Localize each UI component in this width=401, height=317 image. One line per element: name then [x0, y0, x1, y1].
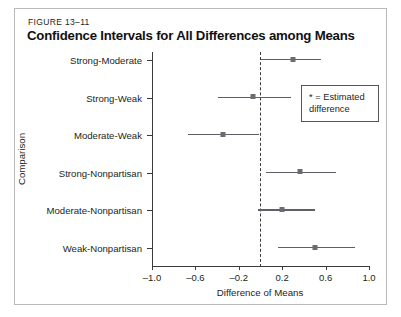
- y-axis-title: Comparison: [16, 133, 27, 185]
- zero-reference-line: [260, 52, 261, 267]
- x-axis-title: Difference of Means: [217, 287, 304, 298]
- x-tick-mark: [195, 266, 196, 270]
- estimated-difference-marker: [297, 169, 302, 174]
- y-axis-line: [152, 52, 153, 267]
- x-tick-mark: [326, 266, 327, 270]
- confidence-interval-row: [0, 204, 401, 216]
- estimated-difference-marker: [280, 207, 285, 212]
- confidence-interval-row: [0, 167, 401, 179]
- x-tick-label: 0.2: [276, 272, 289, 283]
- estimated-difference-marker: [250, 94, 255, 99]
- confidence-interval-row: [0, 54, 401, 66]
- x-tick-mark: [369, 266, 370, 270]
- x-tick-label: –0.2: [230, 272, 249, 283]
- estimated-difference-marker: [291, 57, 296, 62]
- x-tick-label: –0.6: [186, 272, 205, 283]
- plot-area: –1.0–0.6–0.20.20.61.0 Strong-ModerateStr…: [0, 0, 401, 317]
- legend-label: * = Estimated difference: [309, 91, 372, 115]
- x-tick-label: 0.6: [319, 272, 332, 283]
- figure-container: FIGURE 13–11 Confidence Intervals for Al…: [0, 0, 401, 317]
- confidence-interval-row: [0, 242, 401, 254]
- confidence-interval-bar: [258, 209, 314, 210]
- confidence-interval-row: [0, 129, 401, 141]
- x-tick-mark: [239, 266, 240, 270]
- x-tick-label: 1.0: [362, 272, 375, 283]
- legend-box: * = Estimated difference: [301, 85, 379, 122]
- x-tick-label: –1.0: [143, 272, 162, 283]
- estimated-difference-marker: [312, 245, 317, 250]
- x-tick-mark: [282, 266, 283, 270]
- x-tick-mark: [152, 266, 153, 270]
- estimated-difference-marker: [220, 132, 225, 137]
